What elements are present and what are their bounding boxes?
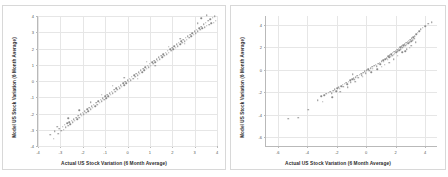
scatter-point xyxy=(79,117,81,119)
grid-line-vertical xyxy=(425,16,426,146)
scatter-point xyxy=(161,57,163,59)
scatter-point xyxy=(207,20,209,22)
scatter-point xyxy=(99,102,101,104)
scatter-point xyxy=(307,109,309,111)
scatter-point xyxy=(203,23,205,25)
scatter-point xyxy=(65,127,67,129)
x-axis-tick-label: -2 xyxy=(81,150,85,155)
grid-line-horizontal xyxy=(38,16,217,17)
scatter-point xyxy=(331,93,333,95)
x-axis-tick xyxy=(366,146,367,148)
scatter-point xyxy=(157,60,159,62)
scatter-point xyxy=(128,81,130,83)
scatter-point xyxy=(64,124,66,126)
scatter-point xyxy=(57,133,59,135)
y-axis-tick xyxy=(36,49,38,50)
y-axis-label-text: Model US Stock Variation (6 Month Averag… xyxy=(240,37,245,138)
scatter-point xyxy=(92,107,94,109)
y-axis-tick-label: -2 xyxy=(30,111,34,116)
scatter-point xyxy=(193,34,195,36)
scatter-point xyxy=(105,97,107,99)
y-axis-tick xyxy=(36,32,38,33)
scatter-point xyxy=(186,39,188,41)
grid-line-horizontal xyxy=(38,32,217,33)
y-axis-tick-label: -6 xyxy=(258,135,262,140)
grid-line-horizontal xyxy=(266,70,437,71)
scatter-point xyxy=(322,101,324,103)
scatter-point xyxy=(410,45,412,47)
y-axis-tick xyxy=(264,115,266,116)
scatter-point xyxy=(419,30,421,32)
scatter-point xyxy=(112,92,114,94)
scatter-point xyxy=(62,126,64,128)
scatter-point xyxy=(97,104,99,106)
scatter-point xyxy=(173,49,175,51)
y-axis-tick-label: -4 xyxy=(30,144,34,149)
grid-line-vertical xyxy=(278,16,279,146)
scatter-point xyxy=(184,40,186,42)
grid-line-horizontal xyxy=(266,137,437,138)
scatter-point xyxy=(201,18,203,20)
scatter-point xyxy=(146,68,148,70)
scatter-point xyxy=(117,89,119,91)
scatter-point xyxy=(383,61,385,63)
scatter-point xyxy=(123,77,125,79)
scatter-point xyxy=(103,99,105,101)
y-axis-tick-label: -2 xyxy=(258,90,262,95)
x-axis-tick-label: 3 xyxy=(194,150,196,155)
x-axis-tick-label: 4 xyxy=(424,150,426,155)
plot-wrapper-right: Model US Stock Variation (6 Month Averag… xyxy=(231,6,445,169)
scatter-point xyxy=(321,95,323,97)
scatter-point xyxy=(346,84,348,86)
x-axis-tick xyxy=(337,146,338,148)
scatter-point xyxy=(205,22,207,24)
x-axis-tick-label: 0 xyxy=(126,150,128,155)
plot-area-right: -6-4-2024-6-4-2024 xyxy=(265,16,437,147)
scatter-point xyxy=(123,84,125,86)
scatter-point xyxy=(381,66,383,68)
chart-panel-left: Model US Stock Variation (6 Month Averag… xyxy=(2,5,226,170)
scatter-point xyxy=(393,58,395,60)
scatter-point xyxy=(130,79,132,81)
scatter-point xyxy=(371,71,373,73)
scatter-point xyxy=(155,62,157,64)
scatter-point xyxy=(132,78,134,80)
scatter-point xyxy=(85,112,87,114)
y-axis-tick-label: 3 xyxy=(32,30,34,35)
x-axis-tick xyxy=(396,146,397,148)
scatter-point xyxy=(416,34,418,36)
grid-line-horizontal xyxy=(38,146,217,147)
y-axis-tick xyxy=(264,47,266,48)
y-axis-tick xyxy=(264,25,266,26)
scatter-point xyxy=(352,74,354,76)
y-axis-tick-label: -1 xyxy=(30,95,34,100)
scatter-point xyxy=(88,110,90,112)
y-axis-tick-label: 0 xyxy=(260,67,262,72)
scatter-point xyxy=(397,55,399,57)
x-axis-tick-label: 4 xyxy=(216,150,218,155)
scatter-point xyxy=(83,114,85,116)
scatter-point xyxy=(110,94,112,96)
scatter-point xyxy=(139,73,141,75)
y-axis-tick xyxy=(36,65,38,66)
scatter-point xyxy=(101,94,103,96)
grid-line-vertical xyxy=(307,16,308,146)
x-axis-label-right: Actual US Stock Variation (6 Month Avera… xyxy=(231,161,445,166)
scatter-point xyxy=(188,37,190,39)
scatter-point xyxy=(175,47,177,49)
scatter-point xyxy=(415,42,417,44)
scatter-point xyxy=(215,20,217,22)
y-axis-tick xyxy=(36,16,38,17)
y-axis-tick-label: 2 xyxy=(32,46,34,51)
scatter-point xyxy=(164,55,166,57)
scatter-point xyxy=(350,81,352,83)
scatter-point xyxy=(377,68,379,70)
scatter-point xyxy=(184,43,186,45)
scatter-point xyxy=(339,88,341,90)
scatter-point xyxy=(67,118,69,120)
x-axis-tick-label: 2 xyxy=(395,150,397,155)
scatter-point xyxy=(94,105,96,107)
scatter-point xyxy=(365,72,367,74)
y-axis-tick xyxy=(264,92,266,93)
scatter-point xyxy=(402,52,404,54)
